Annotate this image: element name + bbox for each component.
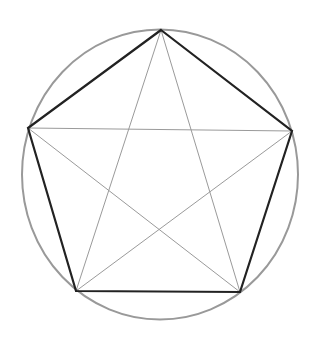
- pentagram-diagonal: [76, 30, 161, 291]
- pentagon: [28, 30, 292, 292]
- circumscribed-circle: [22, 30, 298, 320]
- pentagram-diagonal: [28, 128, 292, 131]
- pentagram-diagonal: [76, 131, 292, 291]
- pentagram-diagonal: [28, 128, 240, 292]
- pentagram-diagonal: [161, 30, 240, 292]
- pentagon-diagram: [0, 0, 323, 340]
